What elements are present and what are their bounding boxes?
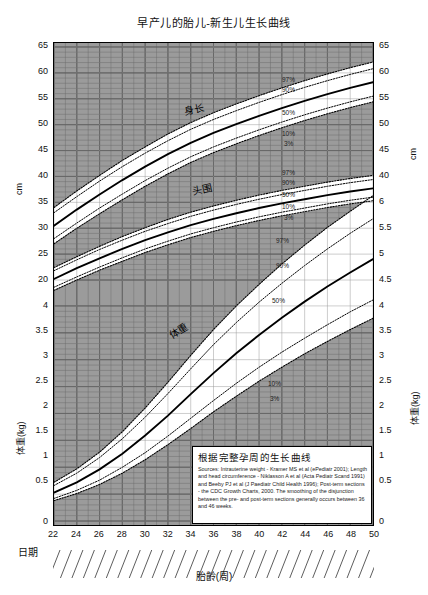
left-tick-60: 60 (18, 67, 48, 76)
right-tick-5p5: 5.5 (379, 223, 413, 232)
left-tick-3p5: 3.5 (18, 326, 48, 335)
x-tick-40: 40 (247, 530, 271, 539)
right-tick-40: 40 (379, 171, 413, 180)
x-axis-label: 胎齡(周) (0, 568, 428, 583)
page-title: 早产儿的胎儿-新生儿生长曲线 (0, 14, 428, 30)
left-tick-0p5: 0.5 (18, 476, 48, 485)
left-axis-unit-cm: cm (14, 183, 24, 195)
x-tick-48: 48 (339, 530, 363, 539)
left-tick-45: 45 (18, 145, 48, 154)
x-tick-30: 30 (133, 530, 157, 539)
right-tick-60: 60 (379, 67, 413, 76)
right-tick-4: 4 (379, 301, 413, 310)
left-axis-unit-kg: 体重(kg) (14, 422, 27, 456)
source-note-body: Sources: Intrauterine weight - Kramer MS… (198, 466, 367, 510)
x-tick-24: 24 (64, 530, 88, 539)
right-tick-0p5: 0.5 (379, 476, 413, 485)
pct-label-weight-3: 3% (270, 395, 279, 402)
x-tick-44: 44 (293, 530, 317, 539)
left-tick-40: 40 (18, 171, 48, 180)
growth-chart-page: 早产儿的胎儿-新生儿生长曲线 身长 头围 体重 97% 90% 50% 10% … (0, 0, 428, 595)
left-tick-20: 20 (18, 275, 48, 284)
x-tick-46: 46 (316, 530, 340, 539)
pct-label-length-90: 90% (282, 86, 295, 93)
pct-label-head-10: 10% (282, 203, 295, 210)
x-tick-36: 36 (202, 530, 226, 539)
pct-label-length-10: 10% (282, 130, 295, 137)
left-tick-65: 65 (18, 41, 48, 50)
pct-label-weight-10: 10% (268, 380, 281, 387)
right-tick-65: 65 (379, 41, 413, 50)
pct-label-length-50: 50% (282, 109, 295, 116)
x-tick-38: 38 (224, 530, 248, 539)
left-tick-35: 35 (18, 197, 48, 206)
pct-label-length-97: 97% (282, 76, 295, 83)
x-tick-28: 28 (110, 530, 134, 539)
left-tick-3: 3 (18, 351, 48, 360)
left-tick-55: 55 (18, 93, 48, 102)
pct-label-length-3: 3% (284, 140, 293, 147)
pct-label-weight-97: 97% (276, 237, 289, 244)
pct-label-head-97: 97% (282, 169, 295, 176)
right-tick-3: 3 (379, 351, 413, 360)
right-tick-6: 6 (379, 197, 413, 206)
date-axis-label: 日期 (18, 544, 38, 559)
left-tick-4: 4 (18, 301, 48, 310)
right-tick-3p5: 3.5 (379, 326, 413, 335)
left-tick-30: 30 (18, 223, 48, 232)
pct-label-weight-90: 90% (276, 262, 289, 269)
right-tick-5: 5 (379, 249, 413, 258)
right-axis-unit-cm: cm (408, 148, 418, 160)
left-tick-2: 2 (18, 401, 48, 410)
x-tick-22: 22 (41, 530, 65, 539)
x-tick-34: 34 (179, 530, 203, 539)
right-tick-4p5: 4.5 (379, 275, 413, 284)
pct-label-head-50: 50% (282, 191, 295, 198)
left-tick-0: 0 (18, 517, 48, 526)
x-tick-42: 42 (270, 530, 294, 539)
right-tick-1: 1 (379, 451, 413, 460)
right-tick-0: 0 (379, 517, 413, 526)
x-tick-50: 50 (362, 530, 386, 539)
pct-label-weight-50: 50% (272, 297, 285, 304)
right-tick-2p5: 2.5 (379, 376, 413, 385)
right-axis-unit-kg: 体重(kg) (408, 392, 421, 426)
left-tick-2p5: 2.5 (18, 376, 48, 385)
right-tick-1p5: 1.5 (379, 426, 413, 435)
x-tick-32: 32 (156, 530, 180, 539)
left-tick-50: 50 (18, 119, 48, 128)
source-note-title: 根据完整孕周的生长曲线 (198, 450, 367, 464)
pct-label-head-90: 90% (282, 179, 295, 186)
pct-label-head-3: 3% (284, 214, 293, 221)
right-tick-50: 50 (379, 119, 413, 128)
right-tick-55: 55 (379, 93, 413, 102)
x-tick-26: 26 (87, 530, 111, 539)
source-note-box: 根据完整孕周的生长曲线 Sources: Intrauterine weight… (192, 446, 372, 524)
left-tick-25: 25 (18, 249, 48, 258)
